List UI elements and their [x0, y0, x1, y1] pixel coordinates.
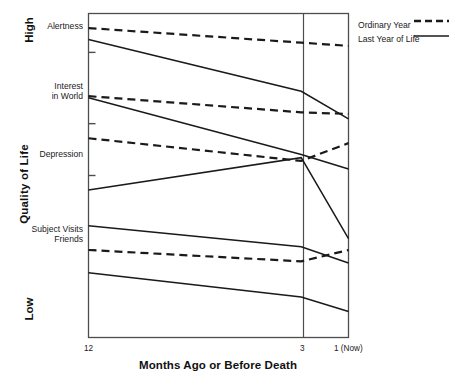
plot-frame — [89, 14, 349, 338]
plot-canvas — [0, 0, 460, 381]
series-line — [89, 28, 349, 46]
series-line — [89, 250, 349, 261]
series-line — [89, 273, 349, 312]
series-line — [89, 96, 349, 114]
y-axis-ticks — [89, 52, 96, 250]
data-series-group — [89, 28, 349, 312]
series-line — [89, 158, 349, 239]
series-line — [89, 138, 349, 161]
chart-figure: Quality of Life High Low Alertness Inter… — [0, 0, 460, 381]
